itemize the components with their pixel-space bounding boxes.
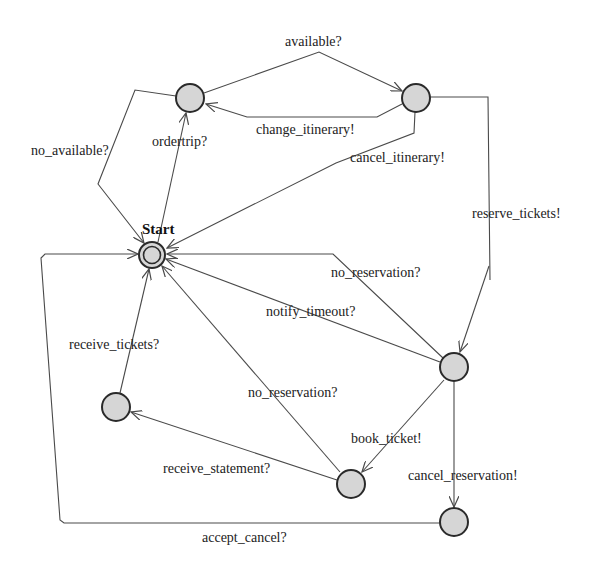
edge-reserve-tickets-arrow (460, 266, 489, 352)
node-s5 (337, 470, 365, 498)
edge-available (204, 52, 402, 93)
edge-label-no-reservation-lower: no_reservation? (248, 385, 337, 401)
edge-label-no-available: no_available? (31, 143, 109, 159)
edge-label-cancel-itinerary: cancel_itinerary! (350, 150, 445, 166)
edge-label-receive-tickets: receive_tickets? (69, 337, 159, 353)
edge-label-accept-cancel: accept_cancel? (202, 530, 287, 546)
edge-label-book-ticket: book_ticket! (351, 431, 422, 447)
state-diagram (0, 0, 608, 572)
edge-no-reservation-lower (162, 266, 340, 472)
edge-label-reserve-tickets: reserve_tickets! (472, 206, 561, 222)
edge-accept-cancel (41, 254, 440, 523)
edge-change-itinerary (206, 104, 402, 117)
edge-label-ordertrip: ordertrip? (152, 134, 207, 150)
node-start (139, 242, 165, 268)
node-s3 (440, 353, 468, 381)
node-s6 (440, 508, 468, 536)
edge-book-ticket (362, 380, 444, 472)
node-s4 (102, 393, 130, 421)
edge-label-receive-statement: receive_statement? (163, 461, 270, 477)
node-s2 (402, 84, 430, 112)
edge-receive-tickets (120, 269, 149, 393)
edge-label-available: available? (285, 34, 342, 50)
node-s1 (176, 84, 204, 112)
edge-label-notify-timeout: notify_timeout? (266, 304, 355, 320)
edge-label-cancel-reservation: cancel_reservation! (408, 468, 518, 484)
edge-label-no-reservation-upper: no_reservation? (331, 265, 420, 281)
edge-reserve-tickets (430, 97, 490, 280)
edge-label-change-itinerary: change_itinerary! (256, 122, 355, 138)
start-state-label: Start (142, 221, 175, 237)
